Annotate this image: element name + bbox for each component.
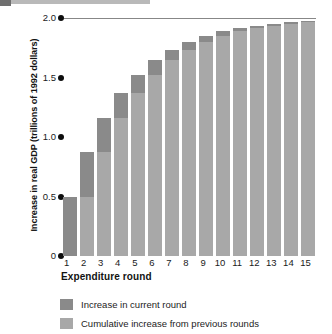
bar-segment-current bbox=[284, 22, 298, 23]
legend-item[interactable]: Cumulative increase from previous rounds bbox=[60, 315, 330, 331]
bar-segment-cumulative bbox=[301, 22, 315, 256]
y-tick-label: 0.5 bbox=[18, 191, 56, 203]
y-tick-label: 1.5 bbox=[18, 72, 56, 84]
bar-group[interactable] bbox=[165, 50, 179, 256]
bar-group[interactable] bbox=[250, 26, 264, 257]
bar-segment-current bbox=[148, 60, 162, 74]
plot-area bbox=[61, 18, 317, 256]
bar-segment-current bbox=[182, 42, 196, 50]
scan-artifact-strip bbox=[0, 0, 150, 4]
bar-group[interactable] bbox=[267, 24, 281, 256]
bar-group[interactable] bbox=[199, 36, 213, 256]
bar-group[interactable] bbox=[80, 152, 94, 256]
bar-segment-current bbox=[165, 50, 179, 61]
bar-segment-cumulative bbox=[216, 36, 230, 256]
bar-segment-cumulative bbox=[165, 60, 179, 256]
bar-segment-current bbox=[267, 24, 281, 26]
bar-segment-current bbox=[97, 118, 111, 151]
bar-segment-current bbox=[301, 21, 315, 22]
bar-segment-cumulative bbox=[284, 24, 298, 256]
bar-segment-current bbox=[216, 31, 230, 35]
bar-group[interactable] bbox=[233, 28, 247, 256]
x-axis-title: Expenditure round bbox=[61, 271, 152, 282]
scan-artifact-block bbox=[0, 0, 11, 6]
y-tick-label: 1.0 bbox=[18, 131, 56, 143]
bar-segment-current bbox=[80, 152, 94, 197]
y-tick-label: 0 bbox=[18, 250, 56, 262]
bar-segment-cumulative bbox=[131, 93, 145, 256]
bar-group[interactable] bbox=[148, 60, 162, 256]
chart-figure: Increase in real GDP (trillions of 1992 … bbox=[0, 0, 332, 334]
bar-segment-cumulative bbox=[182, 50, 196, 256]
bar-group[interactable] bbox=[114, 93, 128, 256]
bar-group[interactable] bbox=[182, 42, 196, 256]
bar-segment-current bbox=[63, 197, 77, 257]
bar-group[interactable] bbox=[216, 31, 230, 256]
x-tick-label: 15 bbox=[295, 257, 315, 268]
y-tick-label: 2.0 bbox=[18, 12, 56, 24]
chart-legend: Increase in current roundCumulative incr… bbox=[60, 296, 330, 334]
bar-segment-cumulative bbox=[114, 118, 128, 256]
legend-swatch bbox=[60, 318, 73, 329]
bar-segment-current bbox=[250, 26, 264, 29]
bar-segment-cumulative bbox=[97, 152, 111, 256]
bar-segment-current bbox=[131, 75, 145, 94]
bar-group[interactable] bbox=[97, 118, 111, 256]
bar-group[interactable] bbox=[131, 75, 145, 256]
bar-segment-current bbox=[233, 28, 247, 31]
legend-item[interactable]: Increase in current round bbox=[60, 296, 330, 312]
bar-segment-cumulative bbox=[148, 75, 162, 256]
bar-segment-cumulative bbox=[250, 28, 264, 256]
bar-segment-cumulative bbox=[233, 31, 247, 256]
legend-label: Increase in current round bbox=[81, 299, 187, 310]
legend-swatch bbox=[60, 299, 73, 310]
bar-group[interactable] bbox=[284, 22, 298, 256]
legend-label: Cumulative increase from previous rounds bbox=[81, 318, 259, 329]
bar-group[interactable] bbox=[301, 21, 315, 256]
bar-segment-current bbox=[199, 36, 213, 42]
bar-group[interactable] bbox=[63, 197, 77, 257]
bar-segment-cumulative bbox=[80, 197, 94, 257]
bar-segment-cumulative bbox=[199, 42, 213, 256]
bar-segment-current bbox=[114, 93, 128, 118]
bar-segment-cumulative bbox=[267, 26, 281, 257]
